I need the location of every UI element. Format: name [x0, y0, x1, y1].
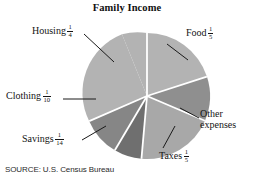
source-note: SOURCE: U.S. Census Bureau: [5, 165, 114, 174]
slice-label-taxes: Taxes15: [159, 149, 189, 163]
slice-label-food-text: Food: [186, 27, 207, 38]
slice-label-housing-text: Housing: [32, 25, 66, 36]
slice-label-clothing-fraction: 110: [43, 89, 52, 103]
slice-label-food: Food15: [186, 26, 213, 40]
slice-label-housing-fraction: 14: [67, 24, 72, 38]
slice-label-savings: Savings114: [22, 132, 64, 146]
slice-label-savings-fraction: 114: [55, 132, 64, 146]
slice-label-clothing-text: Clothing: [6, 90, 41, 101]
slice-label-taxes-fraction: 15: [184, 149, 189, 163]
pie-chart-figure: Family Income: [0, 0, 254, 184]
slice-label-taxes-text: Taxes: [159, 150, 182, 161]
slice-label-savings-text: Savings: [22, 133, 54, 144]
slice-label-clothing: Clothing110: [6, 89, 51, 103]
slice-label-food-fraction: 15: [208, 26, 213, 40]
slice-label-other-expenses: Other expenses: [200, 108, 252, 130]
slice-label-housing: Housing14: [32, 24, 73, 38]
